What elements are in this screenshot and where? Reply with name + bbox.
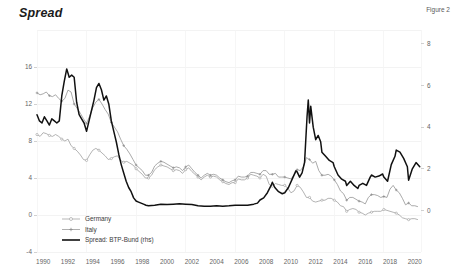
- svg-text:2018: 2018: [383, 258, 398, 265]
- svg-text:4: 4: [28, 174, 32, 181]
- svg-text:2004: 2004: [210, 258, 225, 265]
- svg-text:8: 8: [427, 40, 431, 47]
- svg-text:6: 6: [427, 82, 431, 89]
- data-point: [172, 170, 174, 172]
- svg-text:2014: 2014: [333, 258, 348, 265]
- legend-item: Germany: [62, 215, 112, 223]
- right-axis-ticks: [421, 44, 424, 210]
- left-axis-labels: -40481216: [25, 63, 33, 255]
- svg-text:1998: 1998: [135, 258, 150, 265]
- legend-label: Germany: [85, 215, 112, 223]
- series-layer: [36, 69, 420, 221]
- svg-text:-4: -4: [26, 248, 32, 255]
- data-point: [73, 147, 75, 149]
- svg-text:2012: 2012: [309, 258, 324, 265]
- data-point: [98, 149, 100, 151]
- legend-item: Italy: [62, 226, 98, 234]
- svg-text:2: 2: [427, 165, 431, 172]
- data-point: [234, 182, 236, 184]
- chart-legend: GermanyItalySpread: BTP-Bund (rhs): [62, 215, 154, 244]
- svg-text:1994: 1994: [86, 258, 101, 265]
- data-point: [333, 199, 335, 201]
- data-point: [160, 164, 162, 166]
- chart-plot-area: -40481216 02468 199019921994199619982000…: [0, 0, 458, 276]
- series-line-spread: [37, 69, 420, 206]
- data-point: [259, 177, 261, 179]
- svg-text:1996: 1996: [110, 258, 125, 265]
- left-axis-ticks: [34, 67, 37, 252]
- svg-text:2010: 2010: [284, 258, 299, 265]
- data-point: [383, 208, 385, 210]
- svg-text:2006: 2006: [234, 258, 249, 265]
- svg-text:12: 12: [25, 100, 33, 107]
- data-point: [185, 169, 187, 171]
- data-point: [395, 212, 397, 214]
- data-point: [110, 157, 112, 159]
- svg-text:2000: 2000: [160, 258, 175, 265]
- data-point: [85, 159, 87, 161]
- data-point: [308, 196, 310, 198]
- data-point: [135, 168, 137, 170]
- svg-text:4: 4: [427, 123, 431, 130]
- svg-text:8: 8: [28, 137, 32, 144]
- figure-container: Spread Figure 2 -40481216 02468 19901992…: [0, 0, 458, 276]
- svg-text:16: 16: [25, 63, 33, 70]
- series-line-italy: [37, 90, 418, 207]
- legend-marker-circle-icon: [70, 218, 73, 221]
- legend-label: Italy: [85, 226, 98, 234]
- svg-text:2016: 2016: [358, 258, 373, 265]
- svg-text:2008: 2008: [259, 258, 274, 265]
- svg-text:0: 0: [427, 207, 431, 214]
- chart-svg: -40481216 02468 199019921994199619982000…: [0, 0, 458, 276]
- data-point: [321, 199, 323, 201]
- svg-text:0: 0: [28, 211, 32, 218]
- svg-text:1992: 1992: [61, 258, 76, 265]
- data-point: [284, 184, 286, 186]
- x-axis-labels: 1990199219941996199820002002200420062008…: [36, 258, 422, 265]
- data-point: [296, 184, 298, 186]
- legend-label: Spread: BTP-Bund (rhs): [85, 236, 154, 244]
- data-point: [123, 161, 125, 163]
- data-point: [48, 134, 50, 136]
- data-point: [370, 211, 372, 213]
- data-point: [358, 211, 360, 213]
- legend-item: Spread: BTP-Bund (rhs): [62, 236, 154, 244]
- right-axis-labels: 02468: [427, 40, 431, 213]
- data-point: [61, 138, 63, 140]
- svg-text:2002: 2002: [185, 258, 200, 265]
- svg-text:2020: 2020: [408, 258, 423, 265]
- data-point: [346, 210, 348, 212]
- svg-text:1990: 1990: [36, 258, 51, 265]
- data-point: [36, 133, 38, 135]
- data-point: [147, 177, 149, 179]
- data-point: [408, 219, 410, 221]
